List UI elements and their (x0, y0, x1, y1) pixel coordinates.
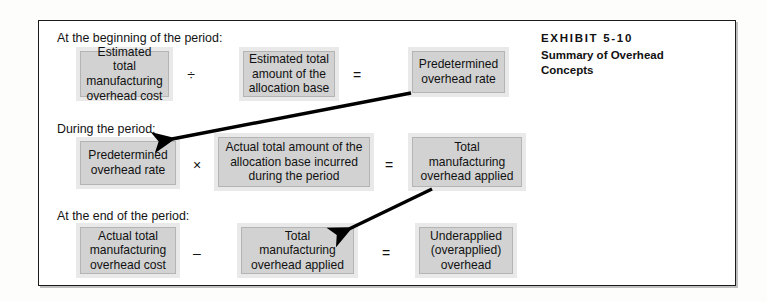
box-predetermined-overhead-rate-input: Predetermined overhead rate (80, 141, 176, 185)
box-estimated-total-amount-of-the-allocation-base: Estimated total amount of the allocation… (243, 51, 335, 97)
section-caption-end: At the end of the period: (57, 209, 189, 223)
page-surface: EXHIBIT 5-10 Summary of Overhead Concept… (0, 0, 767, 302)
operator-divide: ÷ (180, 68, 202, 82)
operator-equals-row1: = (346, 68, 368, 82)
operator-equals-row2: = (378, 158, 400, 172)
box-underapplied-overapplied-overhead: Underapplied (overapplied) overhead (419, 227, 513, 274)
exhibit-header: EXHIBIT 5-10 Summary of Overhead Concept… (541, 31, 726, 77)
box-actual-total-manufacturing-overhead-cost: Actual total manufacturing overhead cost (80, 227, 176, 274)
box-actual-total-amount-of-allocation-base-incurred: Actual total amount of the allocation ba… (218, 137, 370, 187)
exhibit-title: Summary of Overhead Concepts (541, 48, 691, 77)
operator-equals-row3: = (375, 246, 397, 260)
operator-multiply: × (186, 158, 208, 172)
section-caption-during: During the period: (57, 122, 156, 136)
box-total-manufacturing-overhead-applied-input: Total manufacturing overhead applied (241, 227, 354, 274)
box-total-manufacturing-overhead-applied-result: Total manufacturing overhead applied (412, 137, 522, 187)
exhibit-number: EXHIBIT 5-10 (541, 31, 726, 46)
box-estimated-total-manufacturing-overhead-cost: Estimated total manufacturing overhead c… (80, 51, 169, 97)
section-caption-beginning: At the beginning of the period: (57, 31, 222, 45)
operator-subtract: – (186, 246, 208, 260)
box-predetermined-overhead-rate-result: Predetermined overhead rate (412, 51, 505, 93)
